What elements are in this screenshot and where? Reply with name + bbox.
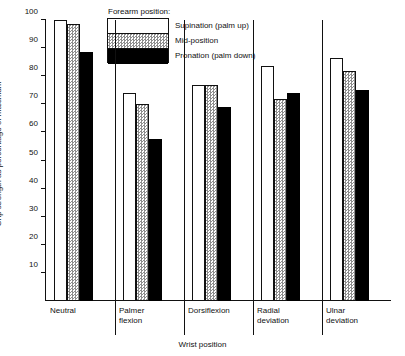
- y-axis-tick-label: 80: [8, 64, 38, 72]
- y-axis-tick-label: 60: [8, 120, 38, 128]
- group-separator: [115, 20, 116, 335]
- y-axis-tick-label: 100: [8, 8, 38, 16]
- x-axis-group-label: Radial deviation: [257, 306, 289, 326]
- plot-area: 102030405060708090100: [46, 20, 391, 301]
- bar: [274, 99, 287, 301]
- y-axis-tick: [41, 216, 46, 217]
- y-axis-tick-label: 30: [8, 205, 38, 213]
- bar: [205, 85, 218, 301]
- bar: [261, 66, 274, 301]
- bar: [330, 58, 343, 301]
- bar: [67, 24, 80, 301]
- y-axis-tick-label: 50: [8, 149, 38, 157]
- bar: [192, 85, 205, 301]
- x-axis-group-label: Palmer flexion: [119, 306, 144, 326]
- y-axis-tick-label: 10: [8, 261, 38, 269]
- bar: [287, 93, 300, 301]
- x-axis-title: Wrist position: [0, 340, 405, 349]
- y-axis-tick-label: 70: [8, 92, 38, 100]
- y-axis-tick: [41, 47, 46, 48]
- group-separator: [253, 20, 254, 335]
- y-axis-tick: [41, 188, 46, 189]
- y-axis-title: Grip strength as percentage of maximum: [0, 44, 3, 264]
- y-axis-tick-label: 20: [8, 233, 38, 241]
- grip-strength-bar-chart: Forearm position: Supination (palm up) M…: [0, 0, 405, 356]
- group-separator: [184, 20, 185, 335]
- y-axis-tick: [41, 160, 46, 161]
- bar: [149, 139, 162, 301]
- bar: [343, 71, 356, 301]
- legend-title: Forearm position:: [107, 7, 297, 16]
- y-axis-tick-label: 40: [8, 177, 38, 185]
- bar: [136, 104, 149, 301]
- y-axis-tick: [41, 75, 46, 76]
- bar: [80, 52, 93, 301]
- x-axis-group-label: Ulnar deviation: [326, 306, 358, 326]
- y-axis-tick: [41, 103, 46, 104]
- y-axis-tick: [41, 272, 46, 273]
- bar: [356, 90, 369, 301]
- x-axis-group-label: Dorsiflexion: [188, 306, 230, 316]
- y-axis-tick-label: 90: [8, 36, 38, 44]
- y-axis-tick: [41, 131, 46, 132]
- bar: [54, 20, 67, 301]
- y-axis-tick: [41, 244, 46, 245]
- bar: [123, 93, 136, 301]
- y-axis-tick: [41, 19, 46, 20]
- bar: [218, 107, 231, 301]
- group-separator: [322, 20, 323, 335]
- x-axis-group-label: Neutral: [50, 306, 76, 316]
